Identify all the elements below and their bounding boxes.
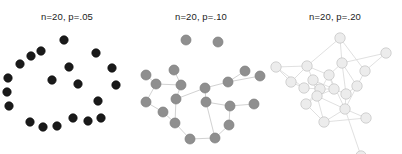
graph-node	[312, 91, 322, 101]
graph-node	[360, 66, 370, 76]
graph-node	[210, 133, 220, 143]
graph-node	[249, 99, 259, 109]
panel-title-p05: n=20, p=.05	[0, 11, 134, 22]
graph-node	[60, 36, 68, 44]
graph-node	[26, 118, 34, 126]
graph-node	[240, 66, 250, 76]
graph-node	[271, 62, 281, 72]
graph-node	[352, 81, 362, 91]
graph-edge	[342, 53, 386, 63]
graph-node	[4, 74, 12, 82]
graph-node	[213, 37, 223, 47]
graph-node	[97, 114, 105, 122]
graph-panel-p10: n=20, p=.10	[134, 0, 268, 154]
node-layer	[141, 35, 265, 144]
node-layer	[271, 33, 391, 154]
graph-node	[84, 117, 92, 125]
graph-node	[176, 80, 186, 90]
graph-node	[335, 33, 345, 43]
graph-edge	[307, 38, 340, 66]
graph-node	[53, 122, 61, 130]
graph-node	[112, 81, 120, 89]
graph-node	[324, 70, 334, 80]
graph-node	[170, 118, 180, 128]
edge-layer	[276, 38, 386, 154]
graph-node	[27, 52, 35, 60]
graph-panel-p20: n=20, p=.20	[268, 0, 402, 154]
graph-node	[308, 75, 318, 85]
graph-node	[341, 89, 351, 99]
graph-node	[5, 102, 13, 110]
graph-node	[151, 79, 161, 89]
graph-node	[74, 80, 82, 88]
node-layer	[3, 36, 120, 131]
graph-node	[108, 64, 116, 72]
graph-node	[169, 65, 179, 75]
graph-node	[224, 120, 234, 130]
graph-node	[201, 97, 211, 107]
graph-node	[185, 134, 195, 144]
graph-canvas-p20	[268, 26, 402, 154]
graph-node	[299, 83, 309, 93]
graph-node	[255, 71, 265, 81]
graph-node	[16, 60, 24, 68]
graph-node	[141, 97, 151, 107]
graph-node	[39, 123, 47, 131]
random-graph-figure: n=20, p=.05 n=20, p=.10 n=20, p=.20	[0, 0, 402, 154]
panel-title-p10: n=20, p=.10	[134, 11, 268, 22]
graph-node	[171, 94, 181, 104]
graph-node	[337, 58, 347, 68]
graph-node	[200, 83, 210, 93]
graph-canvas-p05	[0, 26, 134, 154]
graph-node	[181, 35, 191, 45]
graph-node	[225, 101, 235, 111]
graph-node	[286, 77, 296, 87]
graph-node	[141, 70, 151, 80]
graph-node	[356, 151, 366, 154]
graph-node	[223, 77, 233, 87]
graph-node	[381, 48, 391, 58]
graph-node	[94, 97, 102, 105]
graph-node	[65, 63, 73, 71]
graph-node	[301, 99, 311, 109]
graph-edge	[206, 102, 215, 138]
graph-node	[3, 88, 11, 96]
graph-node	[48, 76, 56, 84]
graph-node	[329, 84, 339, 94]
graph-panel-p05: n=20, p=.05	[0, 0, 134, 154]
panel-title-p20: n=20, p=.20	[268, 11, 402, 22]
graph-node	[319, 117, 329, 127]
graph-edge	[345, 109, 361, 154]
graph-node	[37, 47, 45, 55]
graph-node	[302, 61, 312, 71]
graph-node	[340, 104, 350, 114]
graph-canvas-p10	[134, 26, 268, 154]
graph-node	[361, 113, 371, 123]
graph-node	[69, 114, 77, 122]
graph-node	[92, 49, 100, 57]
graph-node	[158, 107, 168, 117]
